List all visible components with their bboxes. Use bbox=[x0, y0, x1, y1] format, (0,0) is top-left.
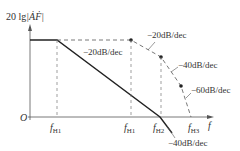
slope-label-dashed-20: −20dB/dec bbox=[147, 30, 187, 40]
leader-dashed-40 bbox=[171, 67, 178, 72]
y-axis-label: 20 lg|ȦḞ| bbox=[6, 11, 44, 22]
label-fH3: fH3 bbox=[188, 122, 200, 135]
leader-solid-40 bbox=[167, 126, 175, 138]
label-fH1-b: fH1 bbox=[124, 122, 136, 135]
break-point-3 bbox=[179, 84, 183, 88]
dashed-response-line bbox=[57, 40, 191, 117]
slope-label-dashed-60: −60dB/dec bbox=[191, 85, 231, 95]
slope-label-dashed-40: −40dB/dec bbox=[178, 60, 218, 70]
leader-dashed-20 bbox=[148, 42, 155, 50]
slope-label-solid-20: −20dB/dec bbox=[83, 47, 123, 57]
slope-label-solid-40: −40dB/dec bbox=[168, 138, 208, 148]
origin-label: O bbox=[20, 112, 27, 123]
x-axis-label: f bbox=[208, 120, 212, 131]
label-fH2: fH2 bbox=[153, 122, 165, 135]
y-axis-arrow-icon bbox=[28, 24, 32, 31]
x-axis-arrow-icon bbox=[207, 115, 214, 119]
label-fH1-a: fH1 bbox=[50, 122, 62, 135]
bode-diagram: 20 lg|ȦḞ| O f fH1 fH1 fH2 fH3 −20dB/dec … bbox=[0, 0, 240, 151]
